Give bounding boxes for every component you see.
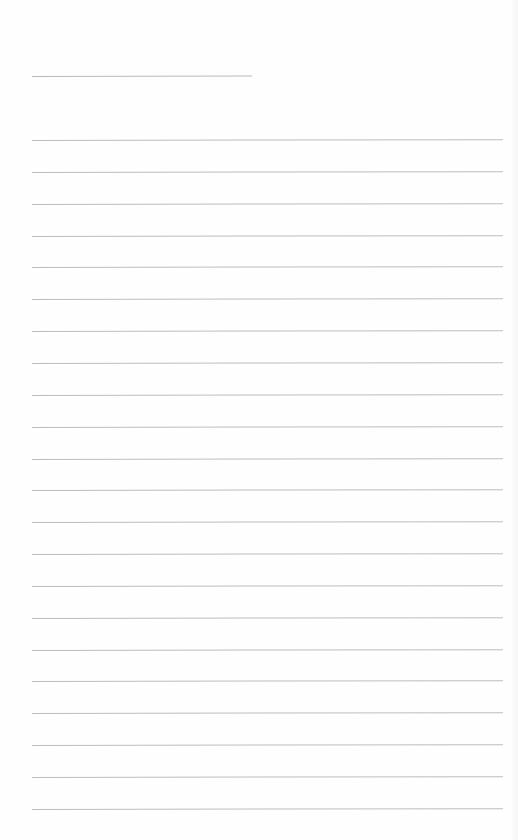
ruled-line: [32, 362, 503, 364]
ruled-line: [32, 298, 503, 300]
ruled-line: [32, 649, 503, 651]
ruled-line: [32, 489, 503, 491]
ruled-line: [32, 712, 503, 714]
ruled-line: [32, 426, 503, 428]
ruled-line: [32, 235, 503, 237]
ruled-line: [32, 521, 503, 523]
ruled-line: [32, 203, 503, 205]
ruled-line: [32, 808, 503, 810]
ruled-line: [32, 680, 503, 682]
ruled-line: [32, 617, 503, 619]
ruled-line: [32, 458, 503, 460]
ruled-line: [32, 744, 503, 746]
ruled-line: [32, 330, 503, 332]
ruled-line: [32, 171, 503, 173]
ruled-line: [32, 139, 503, 141]
ruled-line: [32, 266, 503, 268]
scan-edge-shadow: [510, 0, 518, 840]
ruled-line: [32, 394, 503, 396]
ruled-lines-container: [32, 0, 503, 840]
ruled-line: [32, 776, 503, 778]
lined-paper-page: [0, 0, 518, 840]
ruled-line: [32, 585, 503, 587]
ruled-line: [32, 553, 503, 555]
